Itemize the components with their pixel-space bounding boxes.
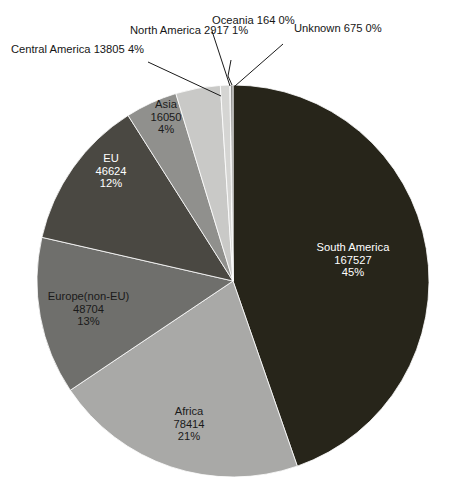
slice-label-name: Unknown xyxy=(294,22,341,34)
slice-label-central-america: Central America 13805 4% xyxy=(10,43,145,56)
slice-label-value: 164 xyxy=(257,14,276,26)
slice-label-name: Oceania xyxy=(212,14,254,26)
slice-label-name: Central America xyxy=(11,43,91,55)
leader-line-north-america xyxy=(212,31,230,86)
slice-label-percent: 0% xyxy=(279,14,295,26)
pie-chart: South America 167527 45% Africa 78414 21… xyxy=(0,0,451,500)
slice-label-name: North America xyxy=(130,24,201,36)
pie-chart-canvas xyxy=(0,0,451,500)
slice-label-percent: 0% xyxy=(366,22,382,34)
slice-label-percent: 4% xyxy=(128,43,144,55)
slice-label-unknown: Unknown 675 0% xyxy=(294,22,370,35)
slice-label-value: 675 xyxy=(344,22,363,34)
slice-label-value: 13805 xyxy=(94,43,125,55)
leader-line-unknown xyxy=(235,44,283,86)
slice-label-oceania: Oceania 164 0% xyxy=(212,14,282,27)
pie-slices-group xyxy=(37,85,429,477)
